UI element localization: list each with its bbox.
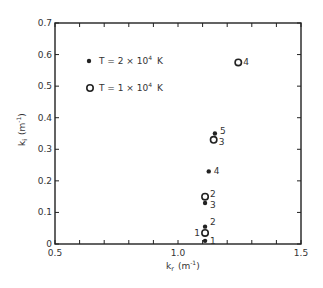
point-label: 4 bbox=[243, 57, 249, 67]
open-circle-point bbox=[202, 230, 208, 236]
point-label: 5 bbox=[220, 126, 226, 136]
scatter-chart: 0.51.01.5 00.10.20.30.40.50.60.7 1234512… bbox=[0, 0, 323, 288]
filled-circle-point bbox=[207, 169, 211, 173]
data-points: 123451234 bbox=[194, 57, 249, 245]
y-tick-label: 0.5 bbox=[38, 81, 52, 91]
filled-circle-point bbox=[213, 131, 217, 135]
y-axis-ticks: 00.10.20.30.40.50.60.7 bbox=[38, 18, 301, 249]
y-tick-label: 0.2 bbox=[38, 176, 52, 186]
y-tick-label: 0.6 bbox=[38, 50, 53, 60]
plot-border bbox=[55, 23, 301, 244]
filled-circle-point bbox=[203, 201, 207, 205]
point-label: 3 bbox=[210, 200, 216, 210]
y-axis-label: ki(m-1) bbox=[15, 113, 29, 146]
y-tick-label: 0.7 bbox=[38, 18, 52, 28]
legend-item-2: T = 1 × 104K bbox=[98, 81, 164, 93]
y-tick-label: 0.1 bbox=[38, 207, 52, 217]
legend: T = 2 × 104K T = 1 × 104K bbox=[87, 54, 164, 93]
point-label: 3 bbox=[219, 137, 225, 147]
x-tick-label: 0.5 bbox=[48, 248, 62, 258]
x-axis-ticks: 0.51.01.5 bbox=[48, 23, 308, 258]
filled-circle-point bbox=[203, 224, 207, 228]
y-tick-label: 0.4 bbox=[38, 113, 53, 123]
legend-filled-circle-icon bbox=[87, 59, 91, 63]
point-label: 4 bbox=[214, 166, 220, 176]
x-axis-label: kr(m-1) bbox=[166, 259, 200, 273]
plot-frame bbox=[55, 23, 301, 244]
point-label: 2 bbox=[210, 189, 216, 199]
open-circle-point bbox=[202, 193, 208, 199]
point-label: 1 bbox=[194, 228, 200, 238]
point-label: 2 bbox=[210, 217, 216, 227]
open-circle-point bbox=[210, 137, 216, 143]
x-tick-label: 1.0 bbox=[171, 248, 186, 258]
point-label: 1 bbox=[210, 236, 216, 246]
legend-open-circle-icon bbox=[87, 85, 93, 91]
open-circle-point bbox=[235, 59, 241, 65]
legend-item-1: T = 2 × 104K bbox=[98, 54, 164, 66]
y-tick-label: 0 bbox=[46, 239, 52, 249]
x-tick-label: 1.5 bbox=[294, 248, 308, 258]
filled-circle-point bbox=[203, 239, 207, 243]
y-tick-label: 0.3 bbox=[38, 144, 52, 154]
